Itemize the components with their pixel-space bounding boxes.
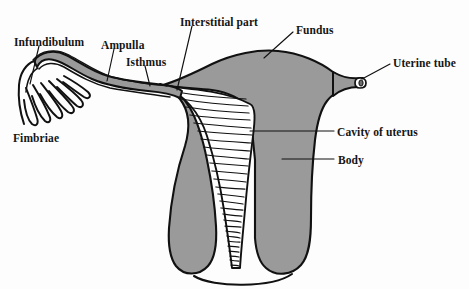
uterus-organ (160, 51, 357, 285)
label-infundibulum: Infundibulum (14, 37, 84, 49)
uterine-tube-leader (362, 64, 390, 79)
label-ampulla: Ampulla (101, 40, 145, 52)
right-tube-lumen (359, 80, 363, 86)
label-cavity-of-uterus: Cavity of uterus (337, 127, 418, 139)
label-body: Body (338, 155, 364, 167)
infundibulum-inner (26, 68, 38, 92)
anatomical-diagram: Infundibulum Fimbriae Ampulla Isthmus In… (0, 0, 469, 289)
label-fimbriae: Fimbriae (13, 133, 59, 145)
label-interstitial-part: Interstitial part (180, 17, 258, 29)
cervix-base (194, 274, 292, 285)
fimbria-4 (49, 81, 74, 113)
label-uterine-tube: Uterine tube (393, 58, 456, 70)
label-fundus: Fundus (296, 25, 334, 37)
right-uterine-tube (333, 72, 366, 96)
label-isthmus: Isthmus (126, 57, 166, 69)
